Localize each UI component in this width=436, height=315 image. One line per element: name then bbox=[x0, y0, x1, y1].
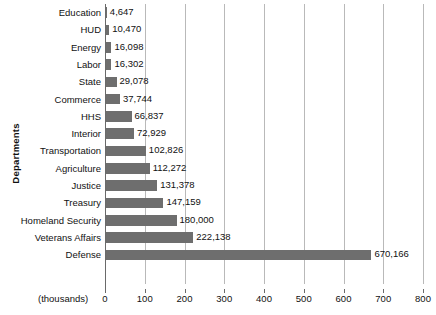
category-label: Energy bbox=[14, 39, 101, 56]
bar-value-label: 222,138 bbox=[196, 231, 230, 243]
bar[interactable] bbox=[105, 198, 163, 209]
y-axis-line bbox=[105, 4, 106, 289]
category-label: Defense bbox=[14, 246, 101, 263]
category-label: Commerce bbox=[14, 91, 101, 108]
bar-value-label: 131,378 bbox=[160, 179, 194, 191]
bar-value-label: 66,837 bbox=[135, 110, 164, 122]
category-label: Education bbox=[14, 4, 101, 21]
bar-row: 147,159 bbox=[105, 194, 423, 211]
bar[interactable] bbox=[105, 94, 120, 105]
bar-value-label: 180,000 bbox=[180, 214, 214, 226]
bar-value-label: 16,302 bbox=[114, 58, 143, 70]
x-tick-label: 600 bbox=[324, 293, 364, 304]
bar-row: 29,078 bbox=[105, 73, 423, 90]
x-tick-label: 800 bbox=[403, 293, 436, 304]
bar-row: 16,098 bbox=[105, 39, 423, 56]
x-tick-label: 300 bbox=[204, 293, 244, 304]
bar-rows: 4,64710,47016,09816,30229,07837,74466,83… bbox=[105, 4, 423, 284]
category-label: Agriculture bbox=[14, 160, 101, 177]
bar-row: 4,647 bbox=[105, 4, 423, 21]
bar-value-label: 72,929 bbox=[137, 127, 166, 139]
bar[interactable] bbox=[105, 232, 193, 243]
bar-value-label: 4,647 bbox=[110, 6, 134, 18]
category-label: Interior bbox=[14, 125, 101, 142]
x-axis-units-label: (thousands) bbox=[38, 293, 88, 304]
bar-value-label: 10,470 bbox=[112, 23, 141, 35]
category-label: Homeland Security bbox=[14, 212, 101, 229]
category-label: Treasury bbox=[14, 194, 101, 211]
bar-value-label: 112,272 bbox=[153, 162, 187, 174]
x-tick-label: 400 bbox=[244, 293, 284, 304]
bar[interactable] bbox=[105, 128, 134, 139]
bar[interactable] bbox=[105, 215, 177, 226]
category-label-column: EducationHUDEnergyLaborStateCommerceHHSI… bbox=[14, 4, 101, 284]
bar-row: 66,837 bbox=[105, 108, 423, 125]
x-tick-label: 700 bbox=[363, 293, 403, 304]
bar-row: 16,302 bbox=[105, 56, 423, 73]
bar-value-label: 102,826 bbox=[149, 144, 183, 156]
bar-value-label: 16,098 bbox=[114, 41, 143, 53]
category-label: Veterans Affairs bbox=[14, 229, 101, 246]
x-tick-label: 0 bbox=[85, 293, 125, 304]
bar[interactable] bbox=[105, 146, 146, 157]
x-tick-label: 200 bbox=[165, 293, 205, 304]
x-tick-label: 500 bbox=[284, 293, 324, 304]
bar[interactable] bbox=[105, 250, 371, 261]
bar-row: 222,138 bbox=[105, 229, 423, 246]
category-label: HUD bbox=[14, 21, 101, 38]
bar-row: 670,166 bbox=[105, 246, 423, 263]
plot-area: 4,64710,47016,09816,30229,07837,74466,83… bbox=[105, 4, 423, 284]
bar-value-label: 670,166 bbox=[374, 248, 408, 260]
category-label: HHS bbox=[14, 108, 101, 125]
bar-row: 37,744 bbox=[105, 91, 423, 108]
bar[interactable] bbox=[105, 111, 132, 122]
gridline-800 bbox=[423, 4, 424, 284]
category-label: Labor bbox=[14, 56, 101, 73]
bar[interactable] bbox=[105, 180, 157, 191]
bar-row: 10,470 bbox=[105, 21, 423, 38]
bar[interactable] bbox=[105, 77, 117, 88]
bar-row: 112,272 bbox=[105, 160, 423, 177]
bar[interactable] bbox=[105, 163, 150, 174]
x-tick-label: 100 bbox=[125, 293, 165, 304]
category-label: Justice bbox=[14, 177, 101, 194]
bar-value-label: 37,744 bbox=[123, 93, 152, 105]
bar-row: 180,000 bbox=[105, 212, 423, 229]
bar-row: 72,929 bbox=[105, 125, 423, 142]
bar-value-label: 29,078 bbox=[120, 75, 149, 87]
y-axis-title: Departments bbox=[0, 0, 14, 315]
bar-row: 131,378 bbox=[105, 177, 423, 194]
category-label: State bbox=[14, 73, 101, 90]
x-axis: 0100200300400500600700800 bbox=[105, 289, 423, 311]
category-label: Transportation bbox=[14, 142, 101, 159]
bar-row: 102,826 bbox=[105, 142, 423, 159]
bar-value-label: 147,159 bbox=[166, 196, 200, 208]
